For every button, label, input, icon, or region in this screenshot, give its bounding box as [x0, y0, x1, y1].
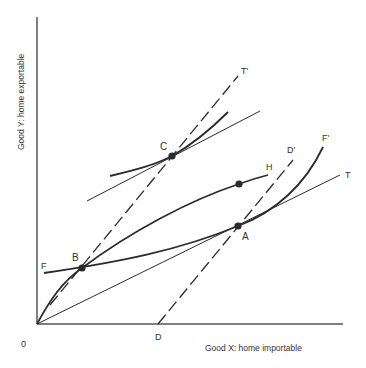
point-B	[78, 264, 85, 271]
label-H: H	[266, 162, 273, 172]
label-T-prime: T'	[241, 66, 248, 76]
curve-F-Fprime	[44, 147, 323, 273]
label-C: C	[160, 141, 167, 152]
origin-label: 0	[21, 339, 26, 349]
curve-O-H	[37, 175, 268, 324]
line-T-prime	[50, 76, 238, 305]
label-F: F	[41, 261, 47, 271]
line-T	[37, 175, 340, 324]
label-B: B	[72, 252, 79, 263]
label-D: D	[155, 332, 162, 342]
line-D-Dprime	[158, 160, 293, 324]
trade-diagram: A B C F F' T T' D D' H 0 Good X: home im…	[0, 0, 366, 368]
label-D-prime: D'	[287, 145, 295, 155]
point-A	[234, 222, 241, 229]
label-F-prime: F'	[322, 133, 329, 143]
curve-through-C	[110, 112, 228, 176]
label-A: A	[242, 231, 249, 242]
y-axis-label: Good Y: home exportable	[16, 53, 26, 150]
x-axis-label: Good X: home importable	[205, 343, 302, 353]
label-T: T	[345, 170, 351, 180]
point-H-dot	[235, 180, 242, 187]
point-C	[168, 152, 175, 159]
